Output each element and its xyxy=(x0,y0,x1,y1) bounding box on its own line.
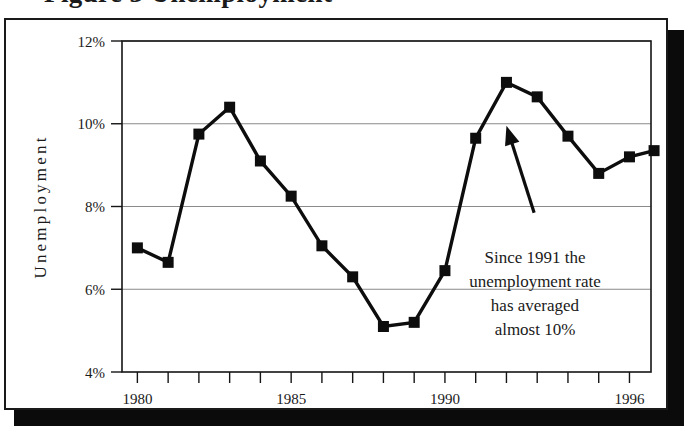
unemployment-line-chart: 4%6%8%10%12% 1980198519901996 Unemployme… xyxy=(6,20,666,408)
data-markers-group xyxy=(132,77,660,332)
y-axis-title: Unemployment xyxy=(31,134,50,278)
annotation-arrow-head xyxy=(505,126,519,146)
annotation-line: Since 1991 the xyxy=(484,248,585,267)
annotation-group: Since 1991 theunemployment ratehas avera… xyxy=(469,126,601,339)
y-tick-label: 6% xyxy=(85,282,105,298)
x-tick-marks-group xyxy=(137,372,629,383)
data-point-marker xyxy=(316,240,327,251)
figure-title: Figure 3 Unemployment xyxy=(44,0,332,9)
x-tick-label: 1990 xyxy=(430,391,460,407)
data-point-marker xyxy=(193,129,204,140)
y-axis-title-group: Unemployment xyxy=(31,134,50,278)
annotation-line: unemployment rate xyxy=(469,272,601,291)
data-point-marker xyxy=(439,265,450,276)
data-point-marker xyxy=(562,131,573,142)
y-tick-marks-group xyxy=(111,41,122,372)
data-point-marker xyxy=(347,271,358,282)
annotation-line: almost 10% xyxy=(495,320,576,339)
annotation-line: has averaged xyxy=(491,296,580,315)
y-tick-label: 4% xyxy=(85,365,105,381)
x-tick-label: 1996 xyxy=(614,391,645,407)
x-tick-labels-group: 1980198519901996 xyxy=(122,391,645,407)
y-tick-label: 10% xyxy=(78,116,106,132)
chart-canvas: 4%6%8%10%12% 1980198519901996 Unemployme… xyxy=(6,20,666,408)
data-point-marker xyxy=(593,168,604,179)
data-point-marker xyxy=(501,77,512,88)
data-point-marker xyxy=(649,145,660,156)
y-tick-label: 8% xyxy=(85,199,105,215)
figure-page: Figure 3 Unemployment 4%6%8%10%12% 19801… xyxy=(0,0,684,426)
data-point-marker xyxy=(470,133,481,144)
data-point-marker xyxy=(255,155,266,166)
data-point-marker xyxy=(532,91,543,102)
data-point-marker xyxy=(624,151,635,162)
y-tick-labels-group: 4%6%8%10%12% xyxy=(78,34,106,381)
data-point-marker xyxy=(163,257,174,268)
cropped-title-area: Figure 3 Unemployment xyxy=(0,0,684,17)
y-tick-label: 12% xyxy=(78,34,106,50)
data-point-marker xyxy=(378,321,389,332)
data-point-marker xyxy=(224,102,235,113)
x-tick-label: 1985 xyxy=(276,391,306,407)
chart-panel: 4%6%8%10%12% 1980198519901996 Unemployme… xyxy=(4,18,668,410)
x-tick-label: 1980 xyxy=(122,391,152,407)
data-point-marker xyxy=(286,191,297,202)
annotation-arrow-shaft xyxy=(511,139,534,213)
data-point-marker xyxy=(132,242,143,253)
data-point-marker xyxy=(409,317,420,328)
